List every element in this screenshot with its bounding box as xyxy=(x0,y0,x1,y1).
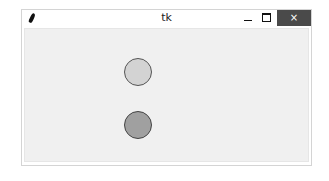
maximize-button[interactable] xyxy=(260,10,272,26)
close-button[interactable]: × xyxy=(277,10,311,26)
light-circle xyxy=(124,58,152,86)
title-bar[interactable]: tk × xyxy=(22,10,311,27)
tk-window: tk × xyxy=(21,9,312,166)
canvas[interactable] xyxy=(24,28,309,162)
dark-circle xyxy=(124,111,152,139)
minimize-button[interactable] xyxy=(242,10,254,26)
